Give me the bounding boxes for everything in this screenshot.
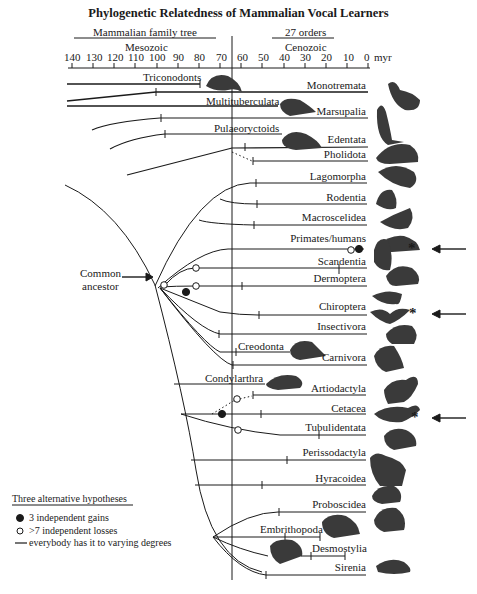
gain-marker-cetacea — [218, 410, 225, 417]
label-triconodonts: Triconodonts — [143, 72, 201, 83]
label-pulaeoryctoids: Pulaeoryctoids — [214, 123, 279, 134]
label-multituberculata: Multituberculata — [206, 96, 279, 107]
label-desmostylia: Desmostylia — [312, 543, 367, 554]
common-ancestor-label-line1: Common — [80, 268, 121, 279]
order-label: Sirenia — [335, 562, 366, 573]
loss-marker-dermoptera — [193, 283, 200, 290]
order-label: Pholidota — [324, 149, 366, 160]
vocal-learner-star-chiroptera: * — [409, 306, 417, 321]
order-label: Macroscelidea — [302, 212, 366, 223]
order-label: Hyracoidea — [315, 473, 366, 484]
legend-title: Three alternative hypotheses — [12, 494, 127, 504]
legend-item-everybody: everybody has it to varying degrees — [29, 538, 171, 548]
loss-marker-primates — [348, 247, 355, 254]
order-label: Dermoptera — [313, 273, 366, 284]
gain-marker-primates — [355, 245, 362, 252]
order-label: Rodentia — [326, 192, 366, 203]
vocal-learner-star-primates: * — [408, 241, 416, 256]
order-label: Insectivora — [317, 321, 366, 332]
order-label: Primates/humans — [290, 233, 366, 244]
order-label: Monotremata — [307, 80, 366, 91]
order-label: Carnivora — [322, 352, 366, 363]
vocal-learner-star-cetacea: * — [411, 410, 419, 425]
legend-item-losses: >7 independent losses — [29, 526, 117, 536]
order-label: Cetacea — [331, 403, 366, 414]
loss-marker-artiodactyla — [234, 396, 241, 403]
order-label: Chiroptera — [319, 301, 366, 312]
order-label: Edentata — [328, 134, 366, 145]
loss-marker-scandentia — [193, 265, 200, 272]
label-embrithopoda: Embrithopoda — [260, 524, 323, 535]
order-label: Marsupalia — [317, 106, 366, 117]
phylogenetic-tree — [0, 0, 477, 594]
loss-marker-tubulidentata — [235, 427, 242, 434]
order-label: Artiodactyla — [311, 383, 366, 394]
order-label: Lagomorpha — [310, 171, 366, 182]
loss-marker-ancestor — [161, 282, 168, 289]
order-label: Scandentia — [318, 256, 366, 267]
common-ancestor-label-line2: ancestor — [82, 281, 119, 292]
order-label: Perissodactyla — [302, 447, 366, 458]
order-label: Proboscidea — [312, 499, 366, 510]
order-label: Tubulidentata — [305, 422, 366, 433]
label-creodonta: Creodonta — [238, 341, 284, 352]
legend-item-gains: 3 independent gains — [29, 513, 109, 523]
gain-marker-chiroptera — [182, 288, 189, 295]
label-condylarthra: Condylarthra — [205, 373, 263, 384]
